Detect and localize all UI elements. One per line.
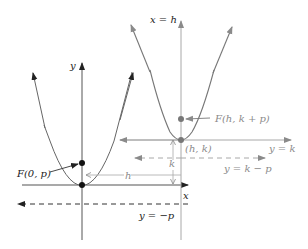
right-focus-label: F(h, k + p) bbox=[214, 113, 270, 124]
right-parabola-curve bbox=[150, 70, 214, 140]
right-directrix-label: y = k − p bbox=[223, 163, 272, 174]
k-shift-label: k bbox=[169, 158, 175, 169]
axis-of-symmetry-label: x = h bbox=[150, 14, 177, 25]
left-parabola-arm-right bbox=[120, 73, 133, 120]
h-shift-label: h bbox=[125, 170, 131, 181]
left-parabola-group: y x F(0, p) y = −p bbox=[16, 60, 189, 240]
left-parabola-curve bbox=[44, 72, 132, 186]
line-y-k-label: y = k bbox=[268, 143, 295, 154]
x-axis-label: x bbox=[183, 190, 189, 201]
left-vertex-point bbox=[79, 182, 85, 188]
right-vertex-point bbox=[178, 137, 184, 143]
right-parabola-arm-left bbox=[131, 25, 150, 72]
y-axis-label: y bbox=[69, 60, 76, 71]
left-parabola-arm-left bbox=[33, 73, 45, 128]
left-focus-label: F(0, p) bbox=[16, 168, 51, 179]
right-focus-pointer bbox=[186, 118, 210, 119]
right-focus-point bbox=[178, 116, 184, 122]
right-vertex-label: (h, k) bbox=[185, 143, 212, 154]
parabola-diagram: y x F(0, p) y = −p x = h F(h, k + p) (h,… bbox=[0, 0, 308, 249]
shift-indicators: h k bbox=[86, 140, 181, 184]
left-directrix-label: y = −p bbox=[138, 210, 175, 221]
right-parabola-group: x = h F(h, k + p) (h, k) y = k y = k − p bbox=[120, 14, 295, 240]
left-focus-point bbox=[79, 160, 85, 166]
right-parabola-arm-right bbox=[213, 27, 232, 73]
